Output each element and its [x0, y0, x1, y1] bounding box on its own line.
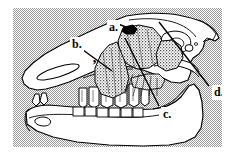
label-a[interactable]: a. [107, 20, 120, 35]
apostrophe-mark: ’ [92, 57, 97, 73]
auditory-meatus-icon [185, 45, 193, 52]
figure-container: ’ a. b. c. d. [0, 0, 232, 159]
label-c[interactable]: c. [161, 107, 173, 122]
lower-incisor [35, 117, 51, 126]
foramen-icon [194, 43, 197, 46]
muscle-slip-lower [131, 74, 165, 90]
illustration-plate: ’ a. b. c. d. [13, 8, 222, 147]
label-d[interactable]: d. [212, 85, 222, 100]
upper-incisors [32, 93, 48, 106]
label-b[interactable]: b. [70, 37, 84, 52]
